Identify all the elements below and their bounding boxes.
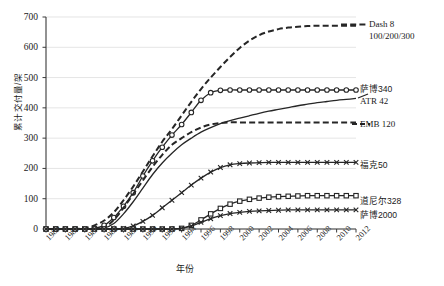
chart-root: 累计交付量/架 年份 7006005004003002001000 198019…	[0, 0, 444, 286]
data-point-marker	[160, 145, 165, 150]
data-point-marker	[228, 202, 232, 206]
data-point-marker	[344, 88, 349, 93]
data-point-marker	[199, 176, 204, 181]
data-point-marker	[189, 183, 194, 188]
data-point-marker	[296, 88, 301, 93]
data-point-marker	[208, 212, 212, 216]
series-6	[44, 193, 358, 231]
data-point-marker	[247, 197, 251, 201]
data-point-marker	[286, 88, 291, 93]
legend-label-dornier328: 道尼尔328	[360, 196, 401, 207]
data-point-marker	[334, 193, 338, 197]
data-point-marker	[325, 193, 329, 197]
data-point-marker	[286, 194, 290, 198]
data-point-marker	[276, 88, 281, 93]
data-point-marker	[315, 88, 320, 93]
data-point-marker	[218, 206, 222, 210]
legend-label-saab340: 萨博340	[360, 84, 392, 95]
data-point-marker	[218, 88, 223, 93]
data-point-marker	[150, 213, 155, 218]
legend-label-emb120: EMB 120	[360, 119, 395, 130]
data-point-marker	[228, 88, 233, 93]
data-point-marker	[160, 206, 165, 211]
data-point-marker	[170, 133, 175, 138]
data-point-marker	[208, 170, 213, 175]
legend-label-fokker50: 福克50	[360, 160, 388, 171]
data-point-marker	[208, 90, 213, 95]
data-point-marker	[238, 199, 242, 203]
data-point-marker	[296, 194, 300, 198]
legend-label-dash8-line1: Dash 8	[369, 19, 394, 30]
data-point-marker	[325, 88, 330, 93]
data-point-marker	[354, 193, 358, 197]
data-point-marker	[354, 88, 359, 93]
data-point-marker	[179, 122, 184, 127]
data-point-marker	[141, 219, 146, 224]
data-point-marker	[189, 110, 194, 115]
data-point-marker	[150, 159, 155, 164]
data-point-marker	[344, 193, 348, 197]
data-point-marker	[247, 88, 252, 93]
data-point-marker	[267, 195, 271, 199]
data-point-marker	[179, 190, 184, 195]
data-point-marker	[305, 193, 309, 197]
data-point-marker	[276, 194, 280, 198]
data-point-marker	[257, 88, 262, 93]
data-point-marker	[334, 88, 339, 93]
data-point-marker	[315, 193, 319, 197]
data-point-marker	[267, 88, 272, 93]
legend-label-dash8-line2: 100/200/300	[369, 31, 415, 42]
data-point-marker	[257, 196, 261, 200]
data-point-marker	[305, 88, 310, 93]
plot-canvas	[0, 0, 444, 286]
legend-label-saab2000: 萨博2000	[360, 210, 397, 221]
legend-label-atr42: ATR 42	[360, 96, 388, 107]
data-point-marker	[237, 88, 242, 93]
data-point-marker	[199, 98, 204, 103]
